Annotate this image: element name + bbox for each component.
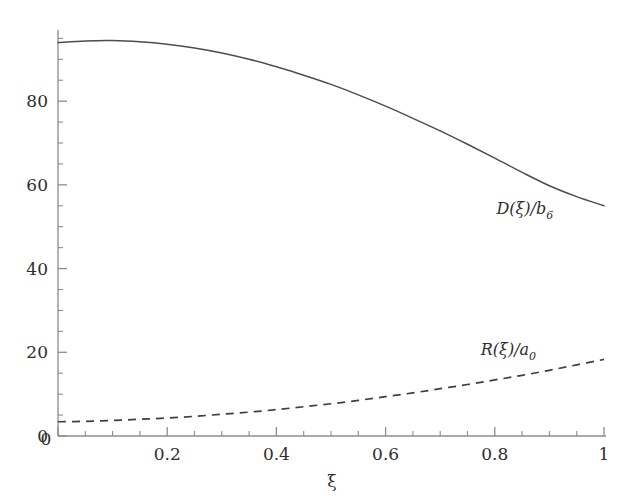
x-tick-label: 0 [41, 429, 52, 449]
chart-background [0, 0, 640, 498]
y-tick-label: 80 [26, 91, 48, 111]
x-axis-title: ξ [327, 471, 336, 491]
line-chart-svg: 020406080 00.20.40.60.81 D(ξ)/b6 R(ξ)/a0… [0, 0, 640, 498]
y-tick-label: 60 [26, 175, 48, 195]
y-tick-label: 40 [26, 259, 48, 279]
x-tick-label: 0.8 [481, 444, 508, 464]
x-tick-label: 1 [599, 444, 610, 464]
x-tick-label: 0.4 [263, 444, 290, 464]
y-tick-label: 20 [26, 342, 48, 362]
x-tick-label: 0.2 [154, 444, 181, 464]
x-tick-label: 0.6 [372, 444, 399, 464]
chart-figure: 020406080 00.20.40.60.81 D(ξ)/b6 R(ξ)/a0… [0, 0, 640, 498]
